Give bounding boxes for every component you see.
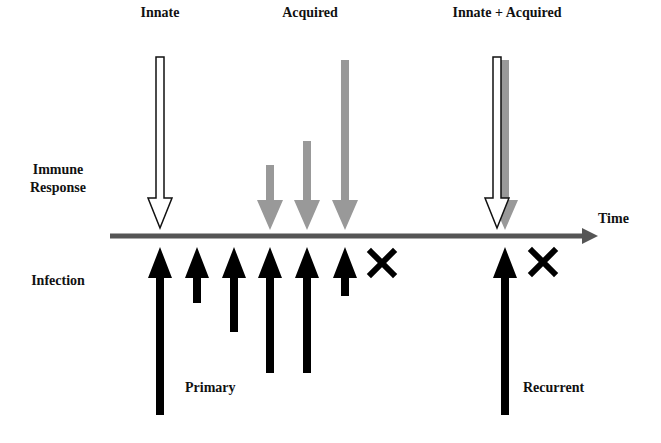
infection-cleared-x-icon xyxy=(532,251,554,273)
immune-response-line2: Response xyxy=(30,179,86,197)
innate-acquired-label: Innate + Acquired xyxy=(453,5,562,21)
infection-arrow-icon xyxy=(295,247,319,373)
innate-label: Innate xyxy=(141,5,180,21)
infection-arrow-icon xyxy=(148,247,172,415)
recurrent-label: Recurrent xyxy=(523,380,584,396)
time-label: Time xyxy=(598,211,629,227)
infection-arrow-icon xyxy=(185,247,209,303)
infection-arrow-icon xyxy=(493,247,517,415)
acquired-response-arrow-icon xyxy=(332,60,358,230)
innate-response-arrow-icon xyxy=(148,57,172,228)
acquired-response-arrow-icon xyxy=(257,165,283,230)
infection-arrow-icon xyxy=(333,247,357,296)
infection-label: Infection xyxy=(31,273,85,289)
time-axis-arrowhead-icon xyxy=(582,228,598,244)
acquired-label: Acquired xyxy=(282,5,338,21)
immune-response-label: Immune Response xyxy=(30,161,86,197)
infection-arrow-icon xyxy=(222,247,246,332)
immune-timeline-diagram xyxy=(0,0,661,443)
infection-cleared-x-icon xyxy=(371,252,393,274)
infection-arrow-icon xyxy=(258,247,282,373)
immune-response-line1: Immune xyxy=(30,161,86,179)
primary-label: Primary xyxy=(185,380,236,396)
acquired-response-arrow-icon xyxy=(294,141,320,230)
